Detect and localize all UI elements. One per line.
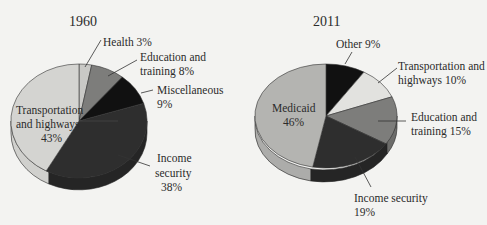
label-education-1960-l1: Education and xyxy=(140,51,206,63)
label-income-2011-l1: Income security xyxy=(354,192,428,205)
label-education-2011-l1: Education and xyxy=(411,111,477,123)
pie-1960: 1960 Heal xyxy=(11,14,224,193)
label-misc-1960-l2: 9% xyxy=(157,98,173,110)
label-health-1960: Health 3% xyxy=(103,36,152,48)
pie-charts: 1960 Heal xyxy=(0,0,487,225)
label-other-2011: Other 9% xyxy=(336,38,381,50)
pie-2011-top xyxy=(255,64,397,168)
label-education-2011-l2: training 15% xyxy=(411,125,471,138)
label-transport-1960-l3: 43% xyxy=(41,132,63,144)
label-income-1960-l2: security xyxy=(155,167,192,180)
label-transport-2011-l2: highways 10% xyxy=(398,74,466,87)
label-medicaid-2011-l2: 46% xyxy=(283,116,305,128)
label-transport-2011-l1: Transportation and xyxy=(398,60,485,73)
label-education-1960-l2: training 8% xyxy=(140,65,194,78)
label-medicaid-2011-l1: Medicaid xyxy=(272,102,316,114)
label-income-1960-l3: 38% xyxy=(161,181,183,193)
pie-1960-title: 1960 xyxy=(69,14,97,29)
label-misc-1960-l1: Miscellaneous xyxy=(157,84,224,96)
label-income-2011-l2: 19% xyxy=(354,206,376,218)
pie-2011-title: 2011 xyxy=(313,14,340,29)
pie-2011: 2011 xyxy=(255,14,485,218)
label-transport-1960-l2: and highways xyxy=(16,118,80,131)
label-transport-1960-l1: Transportation xyxy=(16,104,84,117)
label-income-1960-l1: Income xyxy=(157,152,191,164)
